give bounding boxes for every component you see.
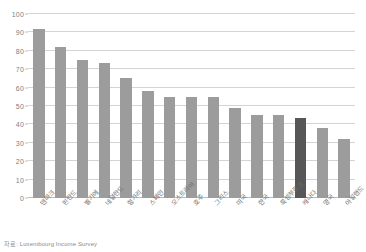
bar-룩셈부르크	[273, 115, 284, 198]
y-tick-label-70: 70	[16, 66, 24, 73]
bar-벨기에	[77, 60, 88, 198]
y-tick-label-40: 40	[16, 121, 24, 128]
y-tick-label-100: 100	[12, 11, 24, 18]
y-tick-label-60: 60	[16, 84, 24, 91]
bar-오스트리아	[164, 97, 175, 198]
bar-핀란드	[55, 47, 66, 198]
y-tick-label-90: 90	[16, 29, 24, 36]
y-tick-label-0: 0	[20, 195, 24, 202]
bar-그리스	[208, 97, 219, 198]
bar-덴마크	[33, 29, 44, 198]
y-tick-label-20: 20	[16, 158, 24, 165]
bar-영국	[317, 128, 328, 198]
bar-아일랜드	[338, 139, 349, 198]
bar-한국	[251, 115, 262, 198]
source-note: 자료: Luxembourg Income Survey	[4, 239, 97, 248]
bar-스페인	[142, 91, 153, 198]
y-tick-label-10: 10	[16, 176, 24, 183]
bar-미국	[229, 108, 240, 198]
bar-네덜란드	[99, 63, 110, 198]
bars-layer	[28, 14, 355, 198]
bar-헝가리	[120, 78, 131, 198]
y-tick-label-50: 50	[16, 103, 24, 110]
x-axis: 덴마크핀란드벨기에네덜란드헝가리스페인오스트리아호주그리스미국한국룩셈부르크캐나…	[28, 200, 355, 240]
y-axis: 0102030405060708090100	[0, 14, 24, 198]
y-tick-label-30: 30	[16, 139, 24, 146]
y-tick-label-80: 80	[16, 47, 24, 54]
